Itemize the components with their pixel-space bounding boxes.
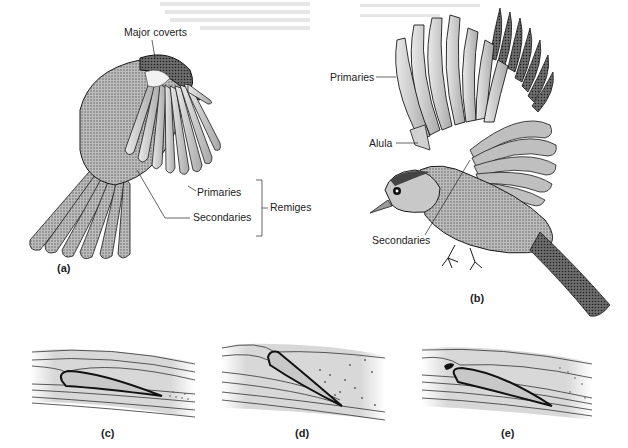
airfoil-d-diagram xyxy=(222,344,385,420)
label-alula: Alula xyxy=(369,137,392,149)
caption-e: (e) xyxy=(501,427,514,439)
caption-a: (a) xyxy=(57,262,70,274)
caption-c: (c) xyxy=(101,427,114,439)
airfoil-e-diagram xyxy=(422,347,592,420)
label-secondaries-b: Secondaries xyxy=(372,234,430,246)
beak-b xyxy=(370,200,392,213)
label-primaries-b: Primaries xyxy=(330,71,374,83)
panel-a-bird-illustration xyxy=(0,0,628,448)
panel-b-bird-illustration xyxy=(370,8,610,316)
label-primaries-a: Primaries xyxy=(197,186,241,198)
caption-d: (d) xyxy=(295,427,309,439)
label-major-coverts: Major coverts xyxy=(124,26,187,38)
label-secondaries-a: Secondaries xyxy=(193,211,251,223)
label-remiges: Remiges xyxy=(270,201,311,213)
caption-b: (b) xyxy=(470,292,484,304)
airfoil-c-diagram xyxy=(30,349,195,418)
